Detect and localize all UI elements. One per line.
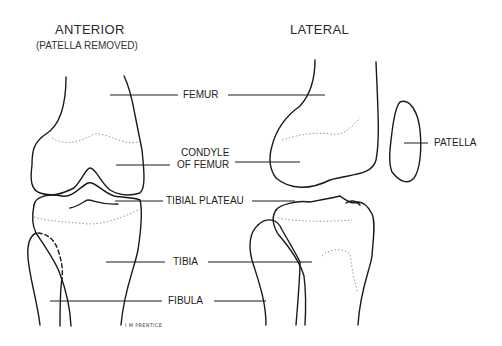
lateral-tibia-epiphyseal-line	[278, 218, 352, 221]
lateral-tibia-posterior	[273, 210, 305, 325]
label-patella: PATELLA	[431, 137, 479, 149]
label-tibia: TIBIA	[170, 256, 201, 268]
anterior-tibia-epiphyseal-line	[34, 210, 138, 224]
label-tibial-plateau: TIBIAL PLATEAU	[163, 195, 247, 207]
illustrator-signature: I M PRENTICE	[125, 322, 162, 328]
anterior-fibula-inner	[60, 278, 62, 326]
lateral-fibula-posterior	[250, 225, 266, 325]
knee-anatomy-drawing	[0, 0, 502, 346]
label-femur: FEMUR	[180, 89, 222, 101]
label-fibula: FIBULA	[165, 295, 206, 307]
anterior-fibula-outline	[28, 233, 40, 325]
lateral-femur-epiphyseal-line	[282, 118, 360, 140]
anterior-femur-epiphyseal-line	[52, 134, 138, 143]
lateral-tibia-outline	[276, 196, 374, 325]
patella-outline	[390, 101, 421, 182]
anterior-plateau-ridge	[70, 200, 118, 208]
label-condyle-line1: CONDYLE	[178, 147, 232, 159]
anterior-tibia-left-outline	[33, 205, 71, 326]
label-condyle-line2: OF FEMUR	[174, 159, 232, 171]
lateral-femur-outline	[270, 60, 378, 187]
lateral-tibia-tuberosity-line	[322, 250, 358, 293]
anterior-femur-outline	[31, 76, 144, 195]
